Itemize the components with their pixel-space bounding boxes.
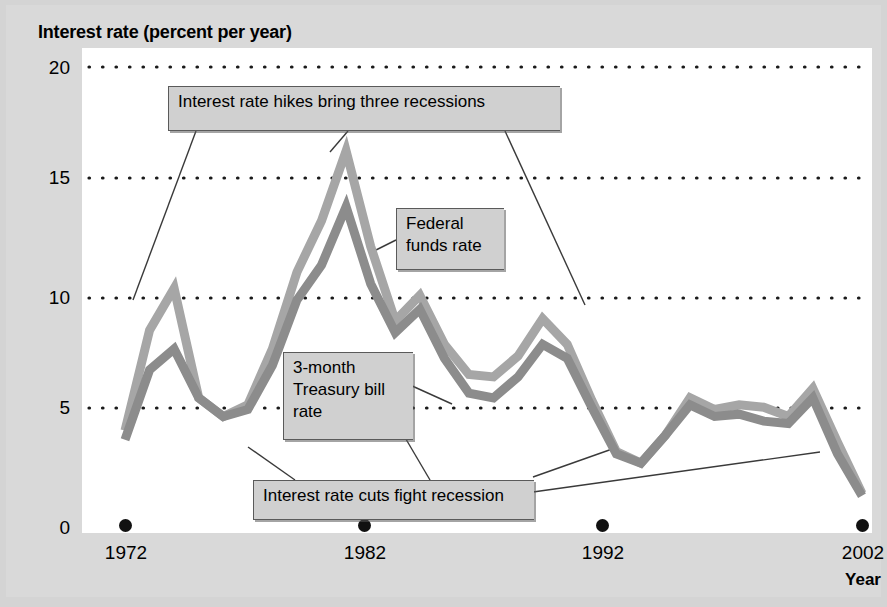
y-tick-label-5: 5 [24, 397, 70, 419]
series-label-federal-funds-rate: Federal funds rate [396, 208, 504, 270]
x-tick-label-2002: 2002 [823, 542, 887, 564]
series-label-treasury-bill-rate: 3-month Treasury bill rate [283, 352, 413, 440]
x-tick-dot-1972 [119, 519, 132, 532]
x-tick-label-1972: 1972 [86, 542, 166, 564]
y-tick-label-15: 15 [24, 167, 70, 189]
x-tick-label-1992: 1992 [563, 542, 643, 564]
y-tick-label-0: 0 [24, 517, 70, 539]
x-tick-label-1982: 1982 [325, 542, 405, 564]
annotation-interest-rate-cuts: Interest rate cuts fight recession [253, 480, 534, 520]
page-title: Interest rate (percent per year) [38, 22, 292, 43]
x-tick-dot-1992 [596, 519, 609, 532]
x-tick-dot-2002 [856, 519, 869, 532]
y-tick-label-10: 10 [24, 287, 70, 309]
x-tick-dot-1982 [358, 519, 371, 532]
x-axis-title: Year [823, 570, 887, 590]
annotation-interest-rate-hikes: Interest rate hikes bring three recessio… [168, 86, 560, 131]
chart-figure: Interest rate (percent per year) 20 15 1… [0, 0, 887, 607]
y-tick-label-20: 20 [24, 57, 70, 79]
